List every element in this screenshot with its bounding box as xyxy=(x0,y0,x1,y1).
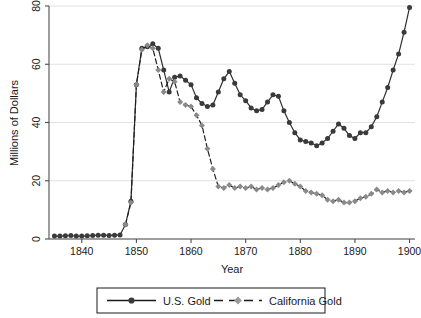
data-point xyxy=(298,137,303,142)
data-point xyxy=(161,68,166,73)
gold-production-chart: 020406080 1840185018601870188018901900 M… xyxy=(0,0,421,318)
x-tick-label-1880: 1880 xyxy=(289,245,313,257)
data-point xyxy=(363,130,368,135)
data-point xyxy=(227,69,232,74)
x-tick-label-1850: 1850 xyxy=(125,245,149,257)
data-point xyxy=(341,126,346,131)
data-point xyxy=(90,233,95,238)
data-point xyxy=(183,78,188,83)
data-point xyxy=(380,100,385,105)
data-point xyxy=(320,140,325,145)
data-point xyxy=(309,140,314,145)
data-point xyxy=(407,5,412,10)
data-point xyxy=(270,92,275,97)
data-point xyxy=(238,92,243,97)
y-tick-label-60: 60 xyxy=(30,58,42,70)
data-point xyxy=(249,105,254,110)
data-point xyxy=(52,234,57,239)
data-point xyxy=(391,68,396,73)
data-point xyxy=(210,103,215,108)
data-point xyxy=(68,233,73,238)
data-point xyxy=(265,100,270,105)
data-point xyxy=(57,234,62,239)
data-point xyxy=(221,76,226,81)
data-point xyxy=(369,124,374,129)
data-point xyxy=(254,108,259,113)
data-point xyxy=(396,52,401,57)
x-tick-label-1890: 1890 xyxy=(343,245,367,257)
data-point xyxy=(101,233,106,238)
x-axis-title: Year xyxy=(221,263,244,275)
data-point xyxy=(199,101,204,106)
data-point xyxy=(325,136,330,141)
data-point xyxy=(336,121,341,126)
data-point xyxy=(63,233,68,238)
data-point xyxy=(205,104,210,109)
data-point xyxy=(402,30,407,35)
y-tick-label-40: 40 xyxy=(30,117,42,129)
data-point xyxy=(216,89,221,94)
x-tick-label-1870: 1870 xyxy=(234,245,258,257)
y-axis-title: Millions of Dollars xyxy=(8,79,20,166)
data-point xyxy=(96,233,101,238)
data-point xyxy=(385,85,390,90)
y-tick-label-0: 0 xyxy=(30,236,42,242)
data-point xyxy=(232,81,237,86)
data-point xyxy=(358,130,363,135)
data-point xyxy=(189,82,194,87)
data-point xyxy=(79,234,84,239)
data-point xyxy=(303,139,308,144)
data-point xyxy=(74,234,79,239)
x-tick-label-1840: 1840 xyxy=(70,245,94,257)
y-tick-label-20: 20 xyxy=(30,175,42,187)
data-point xyxy=(331,129,336,134)
data-point xyxy=(243,98,248,103)
legend-label-us-gold: U.S. Gold xyxy=(163,295,211,307)
data-point xyxy=(352,136,357,141)
data-point xyxy=(112,233,117,238)
data-point xyxy=(194,95,199,100)
chart-legend: U.S. Gold California Gold xyxy=(97,288,342,313)
legend-marker-us-gold xyxy=(128,297,134,303)
data-point xyxy=(287,120,292,125)
data-point xyxy=(156,46,161,51)
data-point xyxy=(276,94,281,99)
x-tick-label-1900: 1900 xyxy=(398,245,421,257)
data-point xyxy=(314,143,319,148)
data-point xyxy=(292,130,297,135)
data-point xyxy=(178,73,183,78)
data-point xyxy=(107,233,112,238)
y-tick-label-80: 80 xyxy=(30,0,42,12)
legend-label-california-gold: California Gold xyxy=(269,295,342,307)
data-point xyxy=(374,114,379,119)
x-tick-label-1860: 1860 xyxy=(179,245,203,257)
data-point xyxy=(260,107,265,112)
data-point xyxy=(281,108,286,113)
data-point xyxy=(167,89,172,94)
data-point xyxy=(85,233,90,238)
data-point xyxy=(347,133,352,138)
data-point xyxy=(118,232,123,237)
